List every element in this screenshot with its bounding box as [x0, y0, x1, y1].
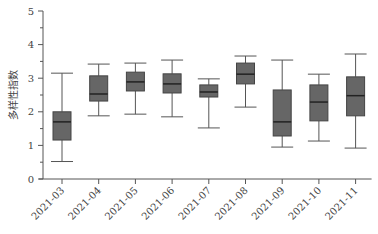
boxes: [51, 54, 367, 162]
box-2021-04: [88, 64, 110, 116]
box-2021-06: [161, 60, 183, 117]
box-2021-07: [198, 79, 220, 128]
box-iqr: [273, 90, 291, 136]
x-tick-label: 2021-06: [139, 185, 176, 222]
box-2021-05: [124, 63, 146, 114]
y-tick-label: 1: [28, 140, 34, 151]
box-iqr: [53, 112, 71, 140]
box-2021-10: [308, 74, 330, 141]
x-tick-label: 2021-09: [249, 185, 286, 222]
box-plot-chart: 0123452021-032021-042021-052021-062021-0…: [0, 0, 378, 234]
box-2021-08: [235, 56, 257, 107]
box-2021-09: [271, 60, 293, 147]
box-iqr: [90, 76, 108, 101]
x-tick-label: 2021-05: [103, 185, 140, 222]
x-tick-label: 2021-03: [29, 185, 66, 222]
y-tick-label: 2: [28, 106, 34, 117]
box-2021-03: [51, 73, 73, 161]
x-tick-label: 2021-08: [213, 185, 250, 222]
x-tick-label: 2021-04: [66, 185, 103, 222]
x-tick-label: 2021-07: [176, 185, 213, 222]
y-tick-label: 5: [28, 6, 34, 17]
y-tick-label: 0: [28, 174, 34, 185]
box-2021-11: [345, 54, 367, 148]
box-iqr: [200, 85, 218, 97]
y-tick-label: 3: [28, 73, 34, 84]
y-tick-label: 4: [28, 39, 34, 50]
y-axis-label: 多样性指数: [7, 70, 19, 120]
x-tick-label: 2021-10: [286, 185, 323, 222]
box-iqr: [310, 85, 328, 121]
x-tick-label: 2021-11: [323, 185, 360, 222]
